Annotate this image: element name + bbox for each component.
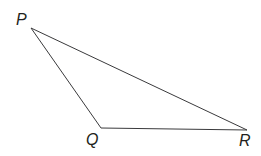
vertex-label-q: Q xyxy=(86,132,98,148)
geometry-figure: P Q R xyxy=(0,0,261,156)
vertex-label-r: R xyxy=(239,133,251,149)
triangle-shape xyxy=(0,0,261,156)
vertex-label-p: P xyxy=(16,12,27,28)
triangle-outline xyxy=(31,28,247,130)
